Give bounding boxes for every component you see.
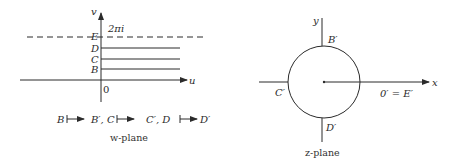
origin-label: 0 bbox=[103, 84, 109, 95]
mapping-3-to: D′ bbox=[199, 114, 211, 125]
zero-prime-e-prime-label: 0′ = E′ bbox=[380, 88, 414, 99]
mapping-2-to: C′, D bbox=[146, 114, 170, 125]
x-axis-label: x bbox=[432, 77, 438, 88]
c-prime-label: C′ bbox=[275, 87, 286, 98]
w-plane: v u 0 E 2πi D C B B B′, C C′, D D′ w- bbox=[20, 6, 211, 143]
y-axis-label: y bbox=[312, 15, 319, 26]
center-point bbox=[323, 81, 325, 83]
w-plane-caption: w-plane bbox=[110, 132, 148, 143]
mapping-row: B B′, C C′, D D′ bbox=[56, 114, 211, 125]
line-b-label: B bbox=[90, 64, 98, 75]
u-axis-label: u bbox=[189, 75, 195, 86]
v-axis-label: v bbox=[91, 6, 97, 17]
two-pi-i-label: 2πi bbox=[107, 23, 124, 34]
mapping-1-to: B′, C bbox=[90, 114, 115, 125]
d-prime-label: D′ bbox=[325, 122, 337, 133]
b-prime-label: B′ bbox=[327, 34, 338, 45]
line-d-label: D bbox=[90, 43, 99, 54]
diagram-canvas: v u 0 E 2πi D C B B B′, C C′, D D′ w- bbox=[0, 0, 459, 161]
dashed-line-e-label: E bbox=[90, 31, 99, 42]
z-plane: y x B′ C′ D′ 0′ = E′ z-plane bbox=[259, 15, 438, 158]
mapping-1-from: B bbox=[56, 114, 64, 125]
z-plane-caption: z-plane bbox=[305, 147, 340, 158]
